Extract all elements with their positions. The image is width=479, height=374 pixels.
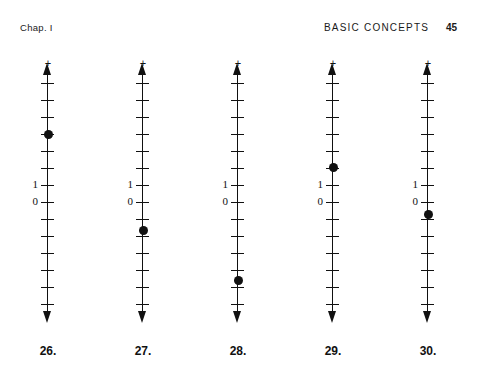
axis-tick xyxy=(326,117,339,118)
number-line-29: +1029. xyxy=(285,0,381,374)
axis-tick xyxy=(41,83,54,84)
exercise-number-caption: 30. xyxy=(380,344,476,358)
axis-tick xyxy=(231,270,244,271)
number-line-28: +1028. xyxy=(190,0,286,374)
axis-tick xyxy=(421,270,434,271)
axis-line xyxy=(142,70,143,316)
axis-tick xyxy=(326,185,339,186)
axis-tick xyxy=(231,236,244,237)
axis-tick xyxy=(326,134,339,135)
axis-tick xyxy=(231,168,244,169)
axis-tick-label: 1 xyxy=(16,179,38,190)
axis-tick xyxy=(231,134,244,135)
axis-tick xyxy=(326,304,339,305)
exercise-number-caption: 26. xyxy=(0,344,96,358)
axis-tick xyxy=(41,236,54,237)
axis-tick xyxy=(326,202,339,203)
plotted-point xyxy=(139,226,148,235)
axis-tick xyxy=(421,253,434,254)
axis-tick xyxy=(136,185,149,186)
axis-tick-label: 1 xyxy=(301,179,323,190)
axis-tick xyxy=(231,117,244,118)
axis-tick xyxy=(136,270,149,271)
axis-tick xyxy=(41,117,54,118)
axis-tick xyxy=(136,83,149,84)
exercise-number-caption: 28. xyxy=(190,344,286,358)
axis-tick xyxy=(421,83,434,84)
axis-tick xyxy=(231,202,244,203)
axis-tick xyxy=(231,100,244,101)
axis-line xyxy=(47,70,48,316)
axis-tick xyxy=(136,117,149,118)
axis-tick xyxy=(41,100,54,101)
axis-tick xyxy=(136,253,149,254)
axis-tick xyxy=(421,134,434,135)
arrow-down-icon xyxy=(233,311,241,323)
axis-tick xyxy=(326,270,339,271)
axis-tick-label: 1 xyxy=(396,179,418,190)
axis-tick xyxy=(421,185,434,186)
plotted-point xyxy=(424,210,433,219)
axis-tick xyxy=(421,117,434,118)
arrow-down-icon xyxy=(423,311,431,323)
axis-tick xyxy=(231,219,244,220)
number-line-27: +1027. xyxy=(95,0,191,374)
axis-tick-label: 1 xyxy=(111,179,133,190)
axis-tick xyxy=(326,100,339,101)
axis-tick xyxy=(136,304,149,305)
axis-tick xyxy=(421,236,434,237)
axis-tick xyxy=(41,202,54,203)
axis-tick xyxy=(231,287,244,288)
axis-tick-label: 0 xyxy=(206,196,228,207)
axis-tick xyxy=(326,83,339,84)
axis-tick xyxy=(421,151,434,152)
axis-line xyxy=(427,70,428,316)
axis-tick xyxy=(231,151,244,152)
axis-tick-label: 0 xyxy=(111,196,133,207)
axis-tick xyxy=(136,236,149,237)
axis-tick xyxy=(326,236,339,237)
axis-tick xyxy=(326,253,339,254)
arrow-down-icon xyxy=(43,311,51,323)
axis-tick xyxy=(41,219,54,220)
axis-tick xyxy=(421,304,434,305)
axis-line xyxy=(332,70,333,316)
axis-tick-label: 1 xyxy=(206,179,228,190)
axis-tick xyxy=(136,100,149,101)
plotted-point xyxy=(44,130,53,139)
exercise-number-caption: 27. xyxy=(95,344,191,358)
axis-tick xyxy=(231,304,244,305)
axis-tick xyxy=(136,151,149,152)
axis-tick xyxy=(41,253,54,254)
axis-tick xyxy=(41,270,54,271)
axis-tick xyxy=(41,151,54,152)
axis-tick xyxy=(421,100,434,101)
arrow-down-icon xyxy=(138,311,146,323)
axis-tick xyxy=(326,151,339,152)
axis-tick xyxy=(136,287,149,288)
axis-tick-label: 0 xyxy=(396,196,418,207)
plotted-point xyxy=(329,163,338,172)
axis-tick xyxy=(136,202,149,203)
number-line-figure-group: +1026.+1027.+1028.+1029.+1030. xyxy=(0,0,479,374)
axis-tick xyxy=(136,168,149,169)
axis-tick xyxy=(41,304,54,305)
axis-tick xyxy=(231,253,244,254)
axis-tick xyxy=(136,134,149,135)
axis-tick xyxy=(41,287,54,288)
number-line-30: +1030. xyxy=(380,0,476,374)
axis-tick xyxy=(41,185,54,186)
axis-tick xyxy=(41,168,54,169)
arrow-down-icon xyxy=(328,311,336,323)
axis-tick xyxy=(421,219,434,220)
axis-tick xyxy=(421,202,434,203)
axis-tick-label: 0 xyxy=(301,196,323,207)
axis-tick-label: 0 xyxy=(16,196,38,207)
axis-tick xyxy=(421,287,434,288)
axis-tick xyxy=(231,185,244,186)
number-line-26: +1026. xyxy=(0,0,96,374)
plotted-point xyxy=(234,276,243,285)
axis-tick xyxy=(231,83,244,84)
axis-tick xyxy=(136,219,149,220)
exercise-number-caption: 29. xyxy=(285,344,381,358)
